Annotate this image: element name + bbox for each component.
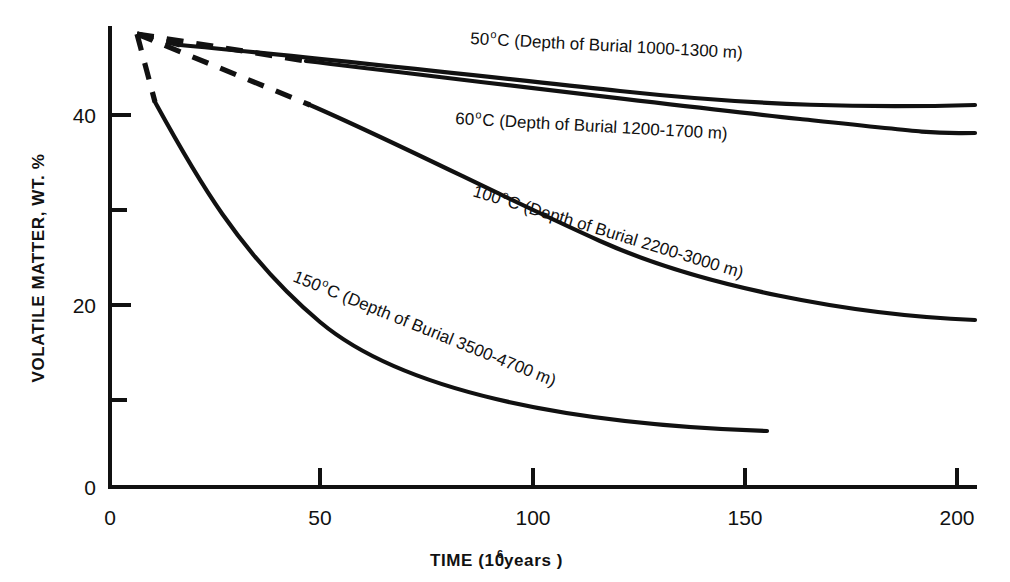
x-tick-labels: 0 50 100 150 200 [104,506,974,529]
curve-label-150c-temp: 150 [291,267,324,295]
curve-label-60c-group: 60 o C (Depth of Burial 1200-1700 m) [455,107,728,143]
curve-150c [155,102,767,431]
curve-label-60c-degree: o [475,108,482,120]
curve-150c-dashed-lead [137,34,155,102]
curve-label-100c-rest: C (Depth of Burial 2200-3000 m) [505,192,746,282]
curve-label-50c-temp: 50 [470,29,490,49]
x-tick-label-150: 150 [727,506,762,529]
curve-100c-dashed-lead [137,34,310,105]
y-axis-title: VOLATILE MATTER, WT. % [29,154,48,383]
x-tick-label-100: 100 [515,506,550,529]
curve-label-100c-temp: 100 [471,182,504,208]
curve-label-60c-rest: C (Depth of Burial 1200-1700 m) [482,111,728,144]
y-tick-label-20: 20 [73,294,96,317]
y-axis-title-group: VOLATILE MATTER, WT. % [29,154,48,383]
curve-label-60c-temp: 60 [455,109,475,129]
y-tick-label-0: 0 [84,476,96,499]
curve-label-150c-group: 150 o C (Depth of Burial 3500-4700 m) [291,265,560,390]
coalification-chart-figure: 40 20 0 0 50 100 150 200 VOLATILE MATTER… [0,0,1010,582]
y-tick-label-40: 40 [73,104,96,127]
axes-group [110,28,975,487]
y-tick-labels: 40 20 0 [73,104,96,499]
x-tick-label-0: 0 [104,506,116,529]
curve-label-50c-degree: o [490,28,497,40]
curve-label-100c-group: 100 o C (Depth of Burial 2200-3000 m) [471,180,747,282]
chart-svg: 40 20 0 0 50 100 150 200 VOLATILE MATTER… [0,0,1010,582]
curve-label-50c-rest: C (Depth of Burial 1000-1300 m) [497,30,743,62]
axis-lines [110,28,975,487]
curve-label-50c-group: 50 o C (Depth of Burial 1000-1300 m) [470,27,743,62]
x-axis-title-tail: years ) [504,551,563,570]
x-axis-title-exponent: 6 [497,548,503,560]
curve-label-150c-rest: C (Depth of Burial 3500-4700 m) [324,281,559,391]
x-tick-label-50: 50 [308,506,331,529]
x-axis-title-group: TIME (10 6 years ) [430,548,563,570]
curve-50c [180,45,975,106]
x-tick-label-200: 200 [939,506,974,529]
x-axis-title-main: TIME (10 [430,551,505,570]
